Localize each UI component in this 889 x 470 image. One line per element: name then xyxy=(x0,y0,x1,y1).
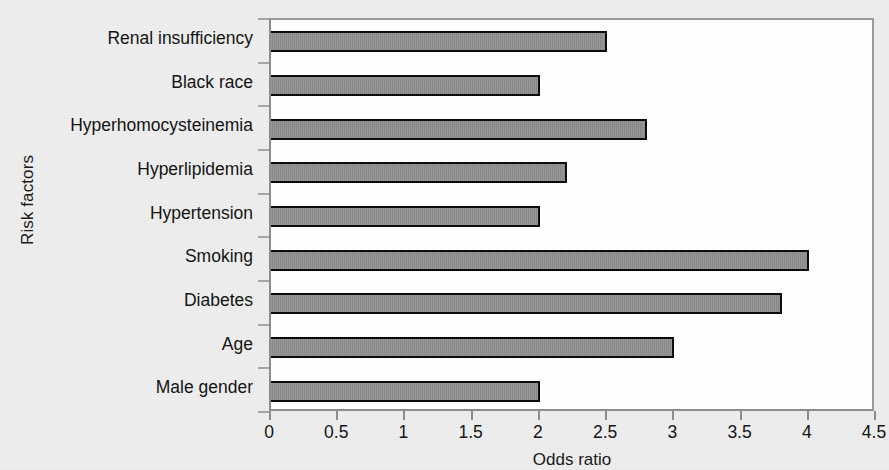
y-axis-tick xyxy=(258,411,269,413)
plot-area xyxy=(269,18,874,411)
y-axis-category-label: Diabetes xyxy=(0,292,253,310)
x-axis-tick-label: 1.5 xyxy=(441,422,501,443)
bar xyxy=(271,250,809,271)
y-axis-tick xyxy=(258,367,269,369)
bar xyxy=(271,31,607,52)
x-axis-tick-label: 2.5 xyxy=(575,422,635,443)
x-axis-tick-label: 0.5 xyxy=(306,422,366,443)
y-axis-tick xyxy=(258,280,269,282)
y-axis-tick xyxy=(258,324,269,326)
x-axis-tick-mark xyxy=(807,411,809,420)
x-axis-title: Odds ratio xyxy=(269,450,875,470)
x-axis-tick-mark xyxy=(538,411,540,420)
bar xyxy=(271,119,647,140)
y-axis-tick xyxy=(258,18,269,20)
x-axis-tick-mark xyxy=(269,411,271,420)
bar xyxy=(271,337,674,358)
x-axis-tick-mark xyxy=(336,411,338,420)
x-axis-tick-label: 4 xyxy=(777,422,837,443)
y-axis-tick xyxy=(258,193,269,195)
y-axis-category-label: Renal insufficiency xyxy=(0,30,253,48)
y-axis-tick xyxy=(258,62,269,64)
x-axis-tick-mark xyxy=(471,411,473,420)
chart-figure: Risk factors Renal insufficiencyBlack ra… xyxy=(0,0,889,470)
x-axis-tick-label: 0 xyxy=(239,422,299,443)
y-axis-tick xyxy=(258,236,269,238)
bar xyxy=(271,75,540,96)
x-axis-tick-mark xyxy=(740,411,742,420)
x-axis-tick-mark xyxy=(403,411,405,420)
y-axis-tick xyxy=(258,149,269,151)
bar xyxy=(271,293,782,314)
y-axis-tick xyxy=(258,105,269,107)
x-axis-tick-label: 3.5 xyxy=(710,422,770,443)
bar xyxy=(271,381,540,402)
y-axis-category-label: Age xyxy=(0,336,253,354)
y-axis-category-label: Hyperhomocysteinemia xyxy=(0,117,253,135)
x-axis-tick-label: 3 xyxy=(642,422,702,443)
x-axis-tick-mark xyxy=(672,411,674,420)
y-axis-category-labels: Renal insufficiencyBlack raceHyperhomocy… xyxy=(0,18,253,411)
x-axis-tick-label: 2 xyxy=(508,422,568,443)
y-axis-category-label: Hyperlipidemia xyxy=(0,161,253,179)
y-axis-category-label: Smoking xyxy=(0,248,253,266)
x-axis-tick-label: 4.5 xyxy=(844,422,889,443)
y-axis-category-label: Male gender xyxy=(0,379,253,397)
y-axis-category-label: Black race xyxy=(0,74,253,92)
bar xyxy=(271,206,540,227)
y-axis-category-label: Hypertension xyxy=(0,205,253,223)
x-axis-tick-mark xyxy=(874,411,876,420)
bar xyxy=(271,162,567,183)
x-axis-tick-label: 1 xyxy=(373,422,433,443)
x-axis-tick-mark xyxy=(605,411,607,420)
x-axis-ticks: 00.511.522.533.544.5 xyxy=(269,411,875,451)
